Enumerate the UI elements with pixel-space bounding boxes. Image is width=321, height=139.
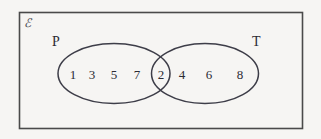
universal-set-label: ℰ — [24, 16, 33, 30]
venn-diagram-canvas: ℰ P T 1 3 5 7 2 4 6 8 — [0, 0, 321, 139]
element-label: 3 — [89, 67, 96, 82]
element-label: 4 — [179, 67, 186, 82]
element-label: 1 — [70, 67, 77, 82]
element-label: 5 — [111, 67, 118, 82]
set-label-P: P — [52, 34, 60, 49]
element-label: 2 — [158, 67, 165, 82]
set-label-T: T — [252, 34, 261, 49]
element-label: 8 — [237, 67, 244, 82]
element-label: 6 — [206, 67, 213, 82]
venn-diagram: ℰ P T 1 3 5 7 2 4 6 8 — [0, 0, 321, 139]
element-label: 7 — [134, 67, 141, 82]
